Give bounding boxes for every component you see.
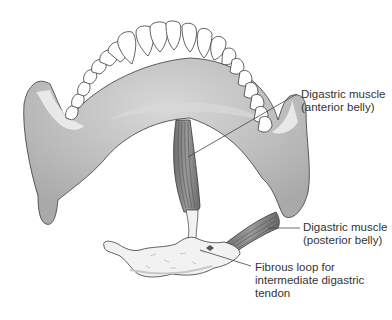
anterior-belly-muscle [174, 120, 200, 240]
label-fibrous-loop-line-1: Fibrous loop for [255, 261, 364, 274]
mandible-body [24, 58, 310, 224]
mandible [24, 58, 310, 224]
tooth [258, 116, 272, 132]
label-anterior-belly-line-1: Digastric muscle [301, 88, 385, 101]
hyoid-bone [104, 237, 240, 277]
label-posterior-belly-line-1: Digastric muscle [303, 221, 387, 234]
label-posterior-belly: Digastric muscle (posterior belly) [303, 221, 387, 247]
label-anterior-belly-line-2: (anterior belly) [301, 101, 385, 114]
label-fibrous-loop: Fibrous loop for intermediate digastric … [255, 261, 364, 300]
tooth [182, 23, 197, 52]
label-anterior-belly: Digastric muscle (anterior belly) [301, 88, 385, 114]
tooth [197, 28, 212, 58]
tooth [166, 21, 181, 50]
label-fibrous-loop-line-2: intermediate digastric [255, 274, 364, 287]
label-posterior-belly-line-2: (posterior belly) [303, 234, 387, 247]
tooth [150, 22, 168, 52]
label-fibrous-loop-line-3: tendon [255, 287, 364, 300]
